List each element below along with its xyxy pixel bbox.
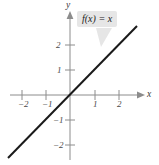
callout-tail <box>96 28 112 47</box>
x-tick-label--2: −2 <box>18 100 29 109</box>
x-axis-arrowhead <box>137 92 145 99</box>
function-equation-callout: f(x) = x <box>77 11 117 27</box>
x-axis-label: x <box>147 90 151 100</box>
y-axis-arrowhead <box>67 11 74 19</box>
function-graph-figure: −2 −1 1 2 2 1 −1 −2 x y f(x) = x <box>0 0 159 165</box>
x-tick-label--1: −1 <box>42 100 53 109</box>
x-tick-label-2: 2 <box>117 100 122 109</box>
x-tick-label-1: 1 <box>93 100 98 109</box>
y-tick-label-2: 2 <box>56 41 61 50</box>
y-tick-label--2: −2 <box>53 141 64 150</box>
function-line-identity <box>8 26 137 158</box>
y-tick-label-1: 1 <box>57 66 62 75</box>
y-tick-label--1: −1 <box>53 116 64 125</box>
y-axis-label: y <box>66 1 70 11</box>
